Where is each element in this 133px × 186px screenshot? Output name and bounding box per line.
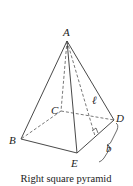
label-C: C bbox=[51, 104, 59, 116]
label-base-edge: b bbox=[106, 142, 112, 154]
visible-edges bbox=[21, 41, 114, 153]
hidden-edges bbox=[21, 41, 114, 139]
edge-AD bbox=[67, 41, 114, 120]
edge-CD bbox=[61, 111, 114, 120]
label-A: A bbox=[62, 26, 70, 38]
label-B: B bbox=[9, 134, 16, 146]
edge-BE bbox=[21, 139, 77, 153]
label-slant-height: ℓ bbox=[92, 94, 97, 106]
edge-AB bbox=[21, 41, 67, 139]
caption: Right square pyramid bbox=[21, 173, 113, 184]
label-E: E bbox=[70, 157, 78, 169]
pyramid-diagram: A C D B E ℓ b Right square pyramid bbox=[0, 0, 133, 186]
label-D: D bbox=[115, 112, 124, 124]
